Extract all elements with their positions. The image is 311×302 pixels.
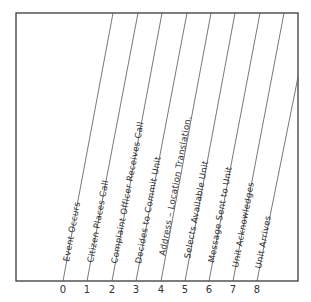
axis-tick-labels: 0 1 2 3 4 5 6 7 8 [60, 284, 260, 295]
event-label-7: Unit Acknowledges [230, 181, 256, 268]
tick-label-6: 6 [206, 284, 212, 295]
tick-label-5: 5 [182, 284, 188, 295]
tick-label-7: 7 [230, 284, 236, 295]
event-labels: Event Occurs Citizen Places Call Complai… [61, 115, 273, 269]
tick-label-1: 1 [84, 284, 90, 295]
event-label-1: Citizen Places Call [85, 179, 110, 263]
tick-label-2: 2 [109, 284, 115, 295]
event-label-8: Unit Arrives [253, 214, 273, 269]
tick-label-8: 8 [254, 284, 260, 295]
event-label-6: Message Sent to Unit [206, 165, 234, 263]
diagram-frame [16, 13, 298, 281]
event-label-0: Event Occurs [61, 201, 82, 263]
tick-label-3: 3 [133, 284, 139, 295]
tick-label-4: 4 [158, 284, 164, 295]
tick-label-0: 0 [60, 284, 66, 295]
event-timeline-diagram: Event Occurs Citizen Places Call Complai… [0, 0, 311, 302]
event-label-5: Selects Available Unit [182, 159, 210, 259]
